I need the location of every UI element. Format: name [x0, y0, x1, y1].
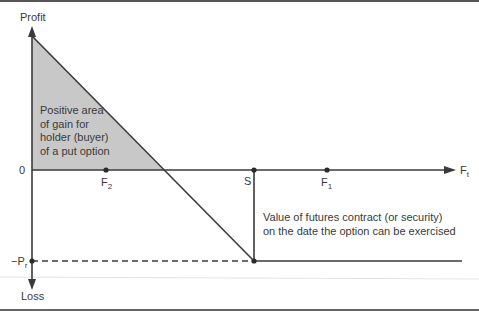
y-axis-profit-label: Profit — [20, 11, 46, 23]
ft-label-sub: t — [467, 170, 469, 179]
s-dot — [251, 167, 256, 172]
premium-label: −Pr — [11, 255, 27, 269]
f2-label: F2 — [101, 176, 112, 190]
value-annotation: Value of futures contract (or security) … — [263, 211, 456, 238]
ft-label-main: F — [460, 164, 467, 176]
f2-label-sub: 2 — [108, 182, 112, 191]
f2-dot — [103, 167, 108, 172]
gain-line-2: of gain for — [40, 118, 110, 132]
x-axis-arrow-icon — [444, 166, 456, 174]
faint-divider — [0, 277, 479, 279]
gain-area-annotation: Positive area of gain for holder (buyer)… — [40, 104, 110, 158]
y-axis-down-arrow-icon — [28, 279, 36, 290]
f1-label-sub: 1 — [328, 182, 332, 191]
premium-label-main: −P — [11, 255, 25, 267]
value-line-1: Value of futures contract (or security) — [263, 211, 456, 225]
s-label: S — [244, 175, 251, 187]
gain-line-1: Positive area — [40, 104, 110, 118]
y-axis-up-arrow-icon — [28, 26, 36, 37]
gain-line-4: of a put option — [40, 145, 110, 159]
f1-label: F1 — [321, 176, 332, 190]
gain-line-3: holder (buyer) — [40, 131, 110, 145]
value-line-2: on the date the option can be exercised — [263, 225, 456, 239]
f1-label-main: F — [321, 176, 328, 188]
zero-label: 0 — [19, 164, 25, 176]
x-axis-ft-label: Ft — [460, 164, 469, 178]
f1-dot — [324, 167, 329, 172]
premium-label-sub: r — [25, 261, 28, 270]
premium-dot — [29, 258, 34, 263]
y-axis-loss-label: Loss — [21, 290, 44, 302]
loss-corner-dot — [251, 258, 256, 263]
f2-label-main: F — [101, 176, 108, 188]
